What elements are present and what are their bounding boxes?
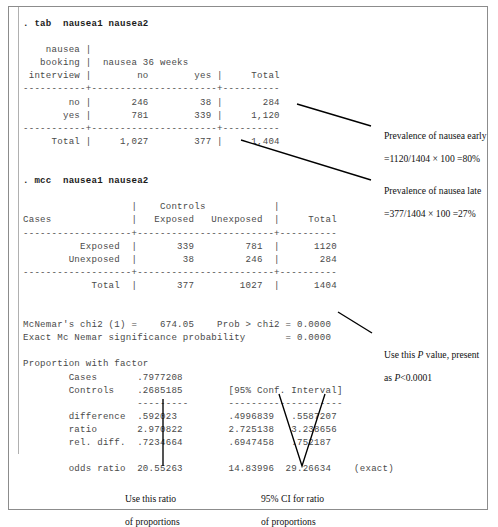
stata-output-line: booking | nausea 36 weeks bbox=[23, 56, 383, 69]
stata-output-line: no | 246 38 | 284 bbox=[23, 96, 383, 109]
annotation-p-value-line1-post: value, present bbox=[423, 349, 479, 360]
annotation-prevalence-early-line1: Prevalence of nausea early bbox=[384, 130, 487, 141]
stata-output-line: Cases | Exposed Unexposed | Total bbox=[23, 213, 383, 226]
stata-output-line: -------------------+--------------------… bbox=[23, 227, 383, 240]
stata-console-output: . tab nausea1 nausea2 nausea | booking |… bbox=[23, 17, 383, 475]
stata-output-line: -------------------+--------------------… bbox=[23, 266, 383, 279]
stata-command-line: . mcc nausea1 nausea2 bbox=[23, 174, 383, 187]
annotation-p-value-line2-post: <0.0001 bbox=[400, 372, 432, 383]
stata-output-line: Total | 1,027 377 | 1,404 bbox=[23, 135, 383, 148]
figure-frame: . tab nausea1 nausea2 nausea | booking |… bbox=[8, 6, 488, 510]
stata-output-line: Total | 377 1027 | 1404 bbox=[23, 279, 383, 292]
stata-output-line: Unexposed | 38 246 | 284 bbox=[23, 253, 383, 266]
stata-blank-line bbox=[23, 148, 383, 161]
stata-output-line: odds ratio 20.55263 14.83996 29.26634 (e… bbox=[23, 462, 383, 475]
stata-blank-line bbox=[23, 187, 383, 200]
stata-output-line: Exact Mc Nemar significance probability … bbox=[23, 331, 383, 344]
annotation-ratio-line2: of proportions bbox=[125, 516, 180, 527]
stata-output-line: Controls .2685185 [95% Conf. Interval] bbox=[23, 384, 383, 397]
annotation-ratio-of-proportions: Use this ratio of proportions bbox=[125, 481, 235, 527]
annotation-prevalence-late-line2: =377/1404 × 100 =27% bbox=[384, 208, 476, 219]
stata-output-line: yes | 781 339 | 1,120 bbox=[23, 109, 383, 122]
stata-command-line: . tab nausea1 nausea2 bbox=[23, 17, 383, 30]
stata-output-line: Exposed | 339 781 | 1120 bbox=[23, 240, 383, 253]
stata-output-line: -----------+----------------------+-----… bbox=[23, 122, 383, 135]
stata-output-line: interview | no yes | Total bbox=[23, 69, 383, 82]
annotation-ci-for-ratio: 95% CI for ratio of proportions bbox=[261, 481, 381, 527]
annotation-ci-line1: 95% CI for ratio bbox=[261, 493, 324, 504]
stata-output-line: -----------+----------------------+-----… bbox=[23, 82, 383, 95]
stata-output-line: --------- -------------------- bbox=[23, 397, 383, 410]
clipped-top-text bbox=[69, 5, 469, 11]
annotation-p-value-line2-pre: as bbox=[384, 372, 394, 383]
stata-blank-line bbox=[23, 449, 383, 462]
stata-output-line: rel. diff. .7234664 .6947458 .752187 bbox=[23, 436, 383, 449]
annotation-p-value-line1-pre: Use this bbox=[384, 349, 418, 360]
stata-blank-line bbox=[23, 292, 383, 305]
stata-output-line: McNemar's chi2 (1) = 674.05 Prob > chi2 … bbox=[23, 318, 383, 331]
stata-blank-line bbox=[23, 161, 383, 174]
stata-output-line: | Controls | bbox=[23, 200, 383, 213]
stata-output-line: ratio 2.970822 2.725138 3.238656 bbox=[23, 423, 383, 436]
annotation-ratio-line1: Use this ratio bbox=[125, 493, 176, 504]
listing-left-rule bbox=[18, 7, 19, 454]
stata-blank-line bbox=[23, 30, 383, 43]
stata-output-line: Cases .7977208 bbox=[23, 371, 383, 384]
stata-blank-line bbox=[23, 305, 383, 318]
stata-output-line: Proportion with factor bbox=[23, 357, 383, 370]
annotation-prevalence-late-line1: Prevalence of nausea late bbox=[384, 185, 481, 196]
stata-output-line: nausea | bbox=[23, 43, 383, 56]
annotation-prevalence-early-line2: =1120/1404 × 100 =80% bbox=[384, 153, 480, 164]
annotation-prevalence-early: Prevalence of nausea early =1120/1404 × … bbox=[384, 118, 498, 164]
annotation-p-value: Use this P value, present as P<0.0001 bbox=[384, 337, 498, 383]
annotation-prevalence-late: Prevalence of nausea late =377/1404 × 10… bbox=[384, 173, 498, 219]
stata-blank-line bbox=[23, 344, 383, 357]
annotation-ci-line2: of proportions bbox=[261, 516, 316, 527]
stata-output-line: difference .592023 .4996839 .5587207 bbox=[23, 410, 383, 423]
